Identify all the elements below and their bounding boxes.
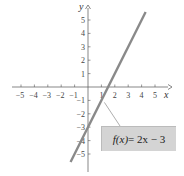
x-tick-label: 2 bbox=[113, 91, 117, 100]
x-axis-arrow-icon bbox=[168, 85, 172, 90]
y-tick-label: 1 bbox=[81, 70, 85, 79]
y-tick-label: −1 bbox=[76, 96, 85, 105]
y-tick-label: 4 bbox=[81, 29, 85, 38]
x-tick-label: −3 bbox=[43, 91, 52, 100]
y-tick-label: 2 bbox=[81, 56, 85, 65]
y-tick-label: −2 bbox=[76, 110, 85, 119]
y-axis-label: y bbox=[78, 1, 84, 12]
annotation-pointer bbox=[104, 102, 120, 126]
y-tick-label: 3 bbox=[81, 43, 85, 52]
x-tick-label: −2 bbox=[56, 91, 65, 100]
x-axis-label: x bbox=[163, 89, 169, 100]
y-tick-label: −5 bbox=[76, 150, 85, 159]
x-tick-label: 4 bbox=[140, 91, 144, 100]
y-tick-label: −3 bbox=[76, 123, 85, 132]
equation-label: f(x) = 2x − 3 bbox=[101, 126, 176, 151]
x-tick-label: −4 bbox=[29, 91, 38, 100]
x-tick-label: 5 bbox=[153, 91, 157, 100]
equation-rest: = 2x − 3 bbox=[128, 133, 165, 145]
y-tick-label: 5 bbox=[81, 16, 85, 25]
x-tick-label: −5 bbox=[16, 91, 25, 100]
equation-fx: f(x) bbox=[113, 133, 128, 145]
x-tick-label: 3 bbox=[126, 91, 130, 100]
